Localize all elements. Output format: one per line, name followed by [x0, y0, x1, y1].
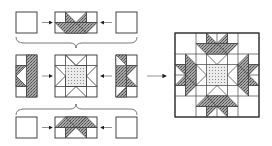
star-point-unit-vertical: [16, 55, 37, 97]
finished-star-block: [175, 33, 259, 117]
corner-square: [116, 12, 137, 33]
star-point-unit-vertical: [116, 55, 137, 97]
quilt-assembly-diagram: [0, 0, 272, 146]
middle-row: [16, 55, 137, 97]
bottom-row: [16, 104, 137, 138]
star-point-unit: [55, 12, 97, 33]
star-point-unit: [55, 117, 97, 138]
brace-top: [16, 37, 137, 48]
center-star-block: [55, 55, 97, 97]
top-row: [16, 12, 137, 48]
brace-bottom: [16, 104, 137, 115]
corner-square: [16, 12, 37, 33]
corner-square: [16, 117, 37, 138]
corner-square: [116, 117, 137, 138]
